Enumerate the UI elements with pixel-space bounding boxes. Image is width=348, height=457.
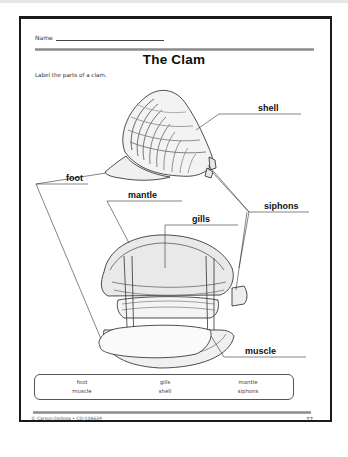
label-foot: foot	[66, 173, 83, 183]
label-siphons: siphons	[264, 201, 299, 211]
open-clam-illustration	[99, 235, 247, 368]
copyright-text: © Carson-Dellosa • CD-104639	[31, 416, 102, 421]
word-bank-item: gills	[130, 379, 200, 385]
label-gills: gills	[192, 214, 210, 224]
label-shell: shell	[258, 103, 279, 113]
closed-clam-illustration	[105, 90, 216, 180]
footer-rule	[33, 411, 311, 414]
label-mantle: mantle	[128, 190, 157, 200]
word-bank-item: shell	[130, 388, 200, 394]
word-bank-item: foot	[47, 379, 117, 385]
word-bank-item: siphons	[213, 388, 283, 394]
page-number: 77	[306, 416, 313, 422]
word-bank-item: mantle	[213, 379, 283, 385]
word-bank-item: muscle	[47, 388, 117, 394]
label-muscle: muscle	[245, 346, 276, 356]
word-bank: foot gills mantle muscle shell siphons	[34, 374, 294, 400]
